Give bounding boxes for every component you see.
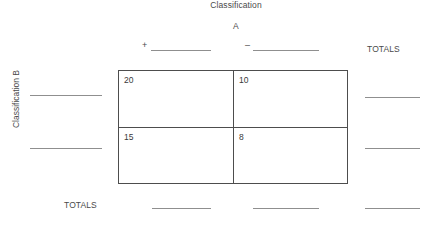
row-2-label-blank[interactable]: [30, 148, 102, 149]
cell-value: 20: [124, 75, 133, 85]
column-category-minus-symbol: –: [245, 40, 250, 50]
grand-total-blank[interactable]: [365, 208, 420, 209]
table-cell-row2-col2[interactable]: 8: [233, 127, 347, 183]
table-cell-row1-col2[interactable]: 10: [233, 71, 347, 127]
column-category-minus-blank[interactable]: [253, 50, 319, 51]
column-category-plus-symbol: +: [142, 40, 147, 50]
table-cell-row2-col1[interactable]: 15: [119, 127, 233, 183]
row-1-label-blank[interactable]: [30, 95, 102, 96]
column-header-line2: A: [195, 21, 277, 31]
row-2-total-blank[interactable]: [365, 148, 420, 149]
column-totals-label: TOTALS: [64, 200, 97, 210]
table-cell-row1-col1[interactable]: 20: [119, 71, 233, 127]
counts-matrix: 20 10 15 8: [118, 70, 348, 184]
column-header-line1: Classification: [195, 0, 277, 10]
cell-value: 10: [239, 75, 248, 85]
column-1-total-blank[interactable]: [152, 208, 211, 209]
cell-value: 8: [239, 132, 244, 142]
row-classification-header: Classification B: [11, 52, 21, 146]
cell-value: 15: [124, 132, 133, 142]
column-category-plus-blank[interactable]: [151, 50, 211, 51]
row-1-total-blank[interactable]: [365, 97, 420, 98]
row-totals-header-label: TOTALS: [367, 44, 400, 54]
column-2-total-blank[interactable]: [253, 208, 319, 209]
contingency-table-figure: Classification A + – TOTALS Classificati…: [0, 0, 424, 228]
